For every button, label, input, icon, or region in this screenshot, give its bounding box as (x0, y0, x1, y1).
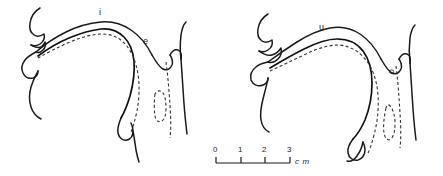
vocal-tract-figure: i e u o 0 1 2 3 c m (0, 0, 443, 176)
tongue-contour-u (270, 39, 372, 139)
figure-canvas (0, 0, 443, 176)
vowel-label-u: u (319, 23, 324, 32)
scale-tick-label-0: 0 (213, 146, 217, 154)
right-panel-drawing (251, 14, 416, 161)
velum-left (152, 55, 172, 70)
hard-palate-right (268, 27, 381, 62)
scale-tick-label-3: 3 (287, 146, 291, 154)
vowel-label-o: o (387, 69, 396, 74)
tongue-contour-o (270, 45, 378, 153)
pharynx-trace-dashed-right (396, 66, 401, 148)
pharyngeal-wall-left (180, 22, 186, 59)
vowel-label-e: e (143, 37, 148, 46)
tongue-contour-e (38, 34, 139, 132)
left-panel-drawing (22, 8, 187, 162)
velar-loop-dashed-left (154, 91, 166, 122)
tongue-contour-i (38, 29, 134, 118)
scale-tick-label-1: 1 (238, 146, 242, 154)
lower-lip-right (251, 62, 268, 86)
vowel-label-i: i (99, 8, 101, 17)
posterior-wall-right (410, 63, 416, 140)
pharyngeal-wall-right (409, 25, 415, 63)
scale-bar-graphic (216, 157, 290, 163)
nose-profile-right (258, 14, 273, 52)
scale-tick-label-2: 2 (262, 146, 266, 154)
pharynx-trace-dashed-left (166, 62, 171, 138)
posterior-wall-left (181, 59, 187, 134)
nose-profile-left (30, 8, 45, 46)
epiglottis-left (118, 118, 133, 140)
velar-loop-dashed-right (384, 105, 395, 140)
scale-unit-label: c m (295, 158, 310, 166)
larynx-front-left (133, 131, 139, 162)
